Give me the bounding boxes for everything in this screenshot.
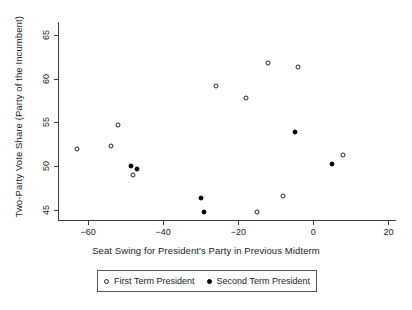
data-point bbox=[108, 143, 113, 148]
x-axis-line bbox=[58, 220, 396, 221]
y-tick-label: 60 bbox=[41, 69, 51, 89]
y-axis-title: Two-Party Vote Share (Party of the Incum… bbox=[13, 18, 24, 218]
filled-circle-icon bbox=[207, 279, 212, 284]
data-point bbox=[292, 129, 297, 134]
y-tick-label: 65 bbox=[41, 25, 51, 45]
legend-entry: First Term President bbox=[104, 276, 194, 286]
y-tick-mark bbox=[54, 210, 58, 211]
y-tick-label: 50 bbox=[41, 156, 51, 176]
x-tick-label: 20 bbox=[383, 227, 393, 237]
data-point bbox=[198, 196, 203, 201]
data-point bbox=[341, 153, 346, 158]
legend-entry: Second Term President bbox=[207, 276, 310, 286]
data-point bbox=[330, 162, 335, 167]
y-tick-label: 55 bbox=[41, 112, 51, 132]
data-point bbox=[116, 122, 121, 127]
x-tick-label: −40 bbox=[156, 227, 171, 237]
data-point bbox=[266, 60, 271, 65]
y-tick-label: 45 bbox=[41, 200, 51, 220]
data-point bbox=[281, 194, 286, 199]
data-point bbox=[243, 95, 248, 100]
scatter-plot-figure: −60−40−20020 4550556065 Seat Swing for P… bbox=[0, 0, 412, 310]
y-tick-mark bbox=[54, 79, 58, 80]
data-point bbox=[213, 83, 218, 88]
data-point bbox=[255, 210, 260, 215]
data-point bbox=[131, 172, 136, 177]
x-tick-label: −60 bbox=[80, 227, 95, 237]
data-point bbox=[74, 147, 79, 152]
x-tick-label: −20 bbox=[231, 227, 246, 237]
x-tick-mark bbox=[88, 221, 89, 225]
legend: First Term PresidentSecond Term Presiden… bbox=[97, 270, 317, 292]
data-point bbox=[296, 65, 301, 70]
open-circle-icon bbox=[104, 279, 109, 284]
data-point bbox=[134, 167, 139, 172]
x-axis-title: Seat Swing for President's Party in Prev… bbox=[0, 245, 412, 256]
y-tick-mark bbox=[54, 35, 58, 36]
x-tick-mark bbox=[163, 221, 164, 225]
x-tick-label: 0 bbox=[311, 227, 316, 237]
y-tick-mark bbox=[54, 122, 58, 123]
data-point bbox=[202, 210, 207, 215]
data-point bbox=[129, 163, 134, 168]
x-tick-mark bbox=[238, 221, 239, 225]
y-tick-mark bbox=[54, 166, 58, 167]
x-tick-mark bbox=[313, 221, 314, 225]
legend-label: Second Term President bbox=[217, 276, 310, 286]
legend-label: First Term President bbox=[114, 276, 194, 286]
y-axis-line bbox=[58, 22, 59, 220]
x-tick-mark bbox=[388, 221, 389, 225]
